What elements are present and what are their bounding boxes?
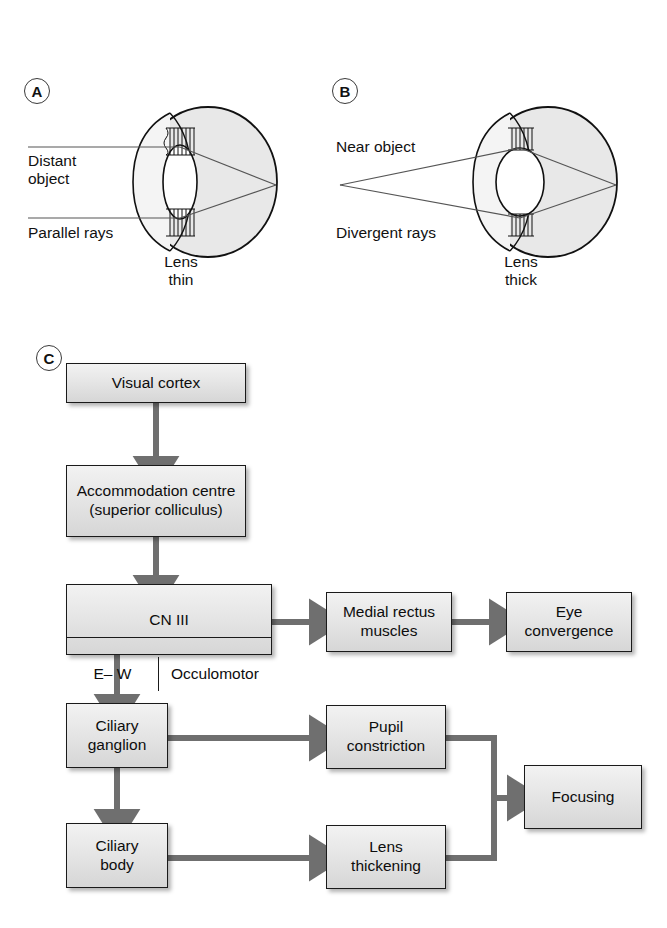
flow-box-accommodation-centre[interactable]: Accommodation centre (superior colliculu… xyxy=(66,465,246,537)
arrow-merge-to-focusing xyxy=(444,738,516,858)
flow-box-cn3-edinger-westphal[interactable]: E– W xyxy=(67,657,159,692)
figure-root: A xyxy=(0,0,667,928)
flow-box-cn3-occulomotor[interactable]: Occulomotor xyxy=(159,657,271,692)
flow-box-lens-thickening[interactable]: Lens thickening xyxy=(326,825,446,889)
flow-box-ciliary-ganglion[interactable]: Ciliary ganglion xyxy=(66,703,168,768)
flow-box-cn3-title: CN III xyxy=(67,604,271,639)
flow-box-medial-rectus-muscles[interactable]: Medial rectus muscles xyxy=(326,592,452,652)
flow-box-cn3[interactable]: CN III E– W Occulomotor xyxy=(66,584,272,655)
flow-box-focusing[interactable]: Focusing xyxy=(524,765,642,829)
flow-box-ciliary-body[interactable]: Ciliary body xyxy=(66,823,168,888)
flow-box-visual-cortex[interactable]: Visual cortex xyxy=(66,363,246,403)
flow-box-eye-convergence[interactable]: Eye convergence xyxy=(506,592,632,652)
flow-box-pupil-constriction[interactable]: Pupil constriction xyxy=(326,705,446,769)
